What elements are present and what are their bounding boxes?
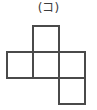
cube-net-svg bbox=[0, 0, 97, 110]
net-cell-middle-left-square bbox=[7, 52, 33, 78]
net-cells bbox=[7, 26, 85, 104]
cube-net-diagram bbox=[0, 0, 97, 110]
net-cell-bottom-right-square bbox=[59, 78, 85, 104]
cube-net-figure: (コ) bbox=[0, 0, 97, 110]
net-cell-middle-center-square bbox=[33, 52, 59, 78]
net-cell-middle-right-square bbox=[59, 52, 85, 78]
net-cell-top-square bbox=[33, 26, 59, 52]
